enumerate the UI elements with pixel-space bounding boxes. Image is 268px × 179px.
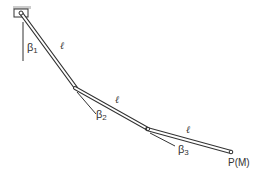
joint-2 xyxy=(146,127,149,130)
length-label-3: ℓ xyxy=(186,125,190,135)
length-label-2: ℓ xyxy=(115,95,119,105)
end-point xyxy=(229,150,233,154)
length-label-1: ℓ xyxy=(60,41,64,51)
angle-label-beta3: β3 xyxy=(178,144,189,157)
angle-label-beta1: β1 xyxy=(27,42,38,55)
pivot-joint xyxy=(19,11,23,15)
angle-label-beta2: β2 xyxy=(96,109,107,122)
rod-2 xyxy=(75,88,148,129)
pendulum-diagram xyxy=(0,0,268,179)
end-point-label: P(M) xyxy=(228,158,250,168)
